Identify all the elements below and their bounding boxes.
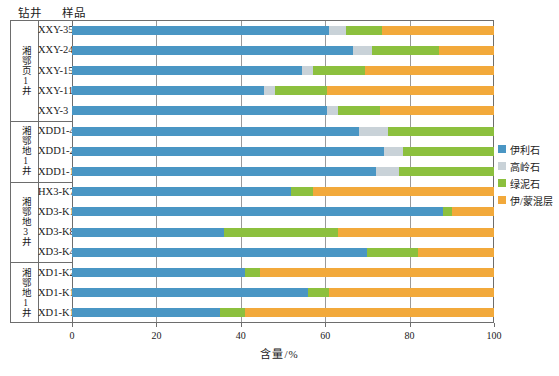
bar-segment-mixed-layer	[338, 228, 494, 237]
table-row	[72, 26, 494, 35]
legend-item[interactable]: 伊/蒙混层	[498, 193, 558, 207]
table-row	[72, 127, 494, 136]
bar-segment-chlorite	[220, 308, 245, 317]
bar-segment-mixed-layer	[380, 106, 494, 115]
clay-mineral-stacked-bar-chart: 钻井 样品 020406080100XXY-35XXY-24XXY-15XXY-…	[0, 0, 559, 376]
well-group-label: 湘鄂页1井	[12, 20, 38, 121]
table-row	[72, 248, 494, 257]
sample-label: XXY-24	[38, 39, 70, 61]
table-row	[72, 268, 494, 277]
bar-segment-kaolinite	[329, 26, 346, 35]
legend-swatch-icon	[498, 196, 506, 204]
table-row	[72, 187, 494, 196]
sample-label: XD1-K10	[38, 302, 70, 324]
legend-item[interactable]: 高岭石	[498, 159, 558, 173]
x-axis-tick-label: 0	[57, 330, 87, 341]
sample-label: XXY-35	[38, 19, 70, 41]
well-group-label: 湘鄂地1井	[12, 121, 38, 182]
sample-label: XDD1-41	[38, 120, 70, 142]
legend-swatch-icon	[498, 145, 506, 153]
sample-column-header: 样品	[62, 4, 86, 20]
sample-label: XD1-K25	[38, 262, 70, 284]
bar-segment-kaolinite	[302, 66, 313, 75]
group-separator	[10, 121, 72, 122]
bar-segment-chlorite	[346, 26, 382, 35]
legend-swatch-icon	[498, 162, 506, 170]
bar-segment-illite	[72, 207, 443, 216]
bar-segment-illite	[72, 228, 224, 237]
bar-segment-illite	[72, 127, 359, 136]
legend-label: 高岭石	[510, 159, 540, 174]
table-row	[72, 167, 494, 176]
table-row	[72, 207, 494, 216]
well-group-label: 湘鄂地1井	[12, 262, 38, 323]
x-axis-tick-label: 40	[226, 330, 256, 341]
bar-segment-chlorite	[372, 46, 440, 55]
x-axis-title: 含量/%	[0, 345, 559, 361]
sample-label: XD1-K13	[38, 282, 70, 304]
bar-segment-illite	[72, 167, 376, 176]
bar-segment-kaolinite	[376, 167, 399, 176]
group-separator	[10, 182, 72, 183]
x-axis-tick	[241, 323, 242, 327]
bar-segment-illite	[72, 187, 291, 196]
bar-segment-chlorite	[245, 268, 260, 277]
bar-segment-chlorite	[338, 106, 380, 115]
bar-segment-chlorite	[291, 187, 312, 196]
bar-segment-chlorite	[313, 66, 366, 75]
well-column-header: 钻井	[18, 4, 42, 20]
table-row	[72, 288, 494, 297]
group-separator	[10, 262, 72, 263]
chart-legend: 伊利石高岭石绿泥石伊/蒙混层	[498, 142, 558, 210]
legend-label: 绿泥石	[510, 176, 540, 191]
x-axis-tick-label: 80	[395, 330, 425, 341]
bar-segment-mixed-layer	[313, 187, 494, 196]
bar-segment-mixed-layer	[365, 66, 494, 75]
legend-item[interactable]: 绿泥石	[498, 176, 558, 190]
bar-segment-chlorite	[308, 288, 329, 297]
x-axis-tick	[494, 323, 495, 327]
x-axis-tick	[325, 323, 326, 327]
bar-segment-mixed-layer	[327, 86, 494, 95]
sample-label: XD3-K16	[38, 201, 70, 223]
bar-segment-illite	[72, 86, 264, 95]
bar-segment-illite	[72, 26, 329, 35]
bar-segment-mixed-layer	[245, 308, 494, 317]
x-axis-tick-label: 60	[310, 330, 340, 341]
bar-segment-illite	[72, 46, 353, 55]
x-axis-tick-label: 20	[141, 330, 171, 341]
bar-segment-chlorite	[275, 86, 328, 95]
sample-label: XDD1-24	[38, 140, 70, 162]
x-axis-tick	[410, 323, 411, 327]
bar-segment-kaolinite	[353, 46, 372, 55]
bar-segment-illite	[72, 66, 302, 75]
legend-swatch-icon	[498, 179, 506, 187]
table-row	[72, 106, 494, 115]
bar-segment-kaolinite	[327, 106, 338, 115]
table-row	[72, 228, 494, 237]
sample-label: XXY-15	[38, 60, 70, 82]
well-group-label: 湘鄂地3井	[12, 182, 38, 263]
bar-segment-illite	[72, 288, 308, 297]
bar-segment-mixed-layer	[452, 207, 494, 216]
bar-segment-chlorite	[388, 127, 494, 136]
table-row	[72, 66, 494, 75]
x-axis-tick	[156, 323, 157, 327]
bar-segment-kaolinite	[359, 127, 389, 136]
bar-segment-illite	[72, 308, 220, 317]
sample-label: XXY-11	[38, 80, 70, 102]
legend-item[interactable]: 伊利石	[498, 142, 558, 156]
bar-segment-chlorite	[399, 167, 494, 176]
bar-segment-kaolinite	[384, 147, 403, 156]
legend-label: 伊利石	[510, 142, 540, 157]
sample-label: XDD1-17	[38, 161, 70, 183]
table-row	[72, 147, 494, 156]
sample-label: HX3-K7	[38, 181, 70, 203]
legend-label: 伊/蒙混层	[510, 193, 553, 208]
x-axis-tick-label: 100	[479, 330, 509, 341]
table-row	[72, 86, 494, 95]
bar-segment-illite	[72, 106, 327, 115]
sample-label: XD3-K4	[38, 241, 70, 263]
sample-label: XXY-3	[38, 100, 70, 122]
bar-segment-kaolinite	[264, 86, 275, 95]
